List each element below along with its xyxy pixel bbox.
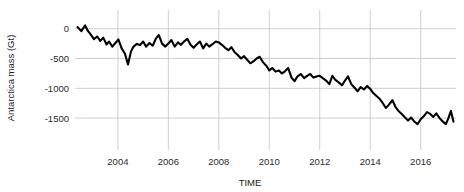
x-tick-label: 2006 [158,156,179,167]
x-tick-label: 2016 [410,156,431,167]
x-tick-label: 2014 [360,156,381,167]
x-axis-title: TIME [239,177,262,188]
y-tick-label: -1500 [45,113,69,124]
y-tick-label: -500 [50,53,69,64]
x-tick-label: 2004 [107,156,128,167]
x-tick-label: 2010 [259,156,280,167]
y-tick-label: -1000 [45,83,69,94]
chart-figure: 2004200620082010201220142016 0-500-1000-… [0,0,464,192]
x-tick-label: 2012 [309,156,330,167]
y-tick-label: 0 [64,23,69,34]
y-axis-title: Antarctica mass (Gt) [5,35,16,122]
antarctica-mass-line-chart: 2004200620082010201220142016 0-500-1000-… [0,0,464,192]
x-tick-label: 2008 [208,156,229,167]
